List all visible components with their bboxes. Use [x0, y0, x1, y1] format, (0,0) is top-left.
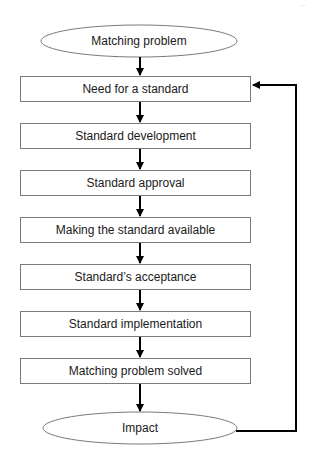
start-label: Matching problem — [41, 35, 237, 47]
step-label-7: Matching problem solved — [20, 365, 251, 377]
end-label: Impact — [43, 422, 237, 434]
step-label-1: Need for a standard — [20, 83, 251, 95]
step-label-3: Standard approval — [20, 177, 251, 189]
step-label-2: Standard development — [20, 130, 251, 142]
step-label-4: Making the standard available — [20, 224, 251, 236]
step-label-5: Standard’s acceptance — [20, 271, 251, 283]
step-label-6: Standard implementation — [20, 318, 251, 330]
